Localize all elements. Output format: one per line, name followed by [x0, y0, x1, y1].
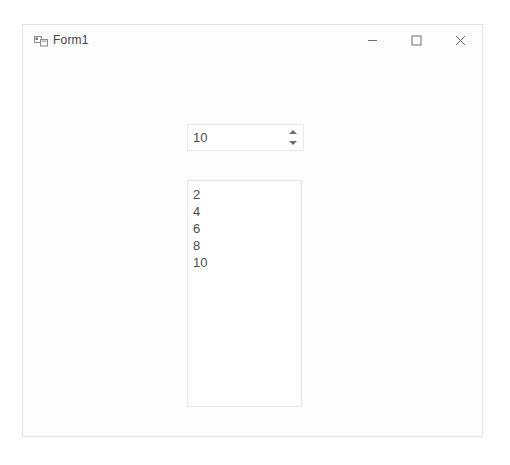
listbox[interactable]: 2 4 6 8 10	[187, 180, 302, 407]
screen: Form1	[0, 0, 510, 465]
maximize-icon	[411, 35, 422, 46]
listbox-items: 2 4 6 8 10	[188, 181, 301, 271]
spinner-down-arrow-icon	[289, 141, 297, 145]
numeric-updown-spinner	[285, 125, 303, 150]
maximize-button[interactable]	[394, 25, 438, 56]
numeric-updown[interactable]: 10	[187, 124, 304, 151]
window-controls	[350, 25, 482, 56]
close-icon	[455, 35, 466, 46]
numeric-updown-increment-button[interactable]	[286, 127, 300, 138]
numeric-updown-decrement-button[interactable]	[286, 138, 300, 149]
minimize-button[interactable]	[350, 25, 394, 56]
list-item[interactable]: 6	[192, 220, 301, 237]
window-title: Form1	[53, 25, 89, 56]
list-item[interactable]: 8	[192, 237, 301, 254]
minimize-icon	[367, 35, 378, 46]
list-item[interactable]: 10	[192, 254, 301, 271]
numeric-updown-value[interactable]: 10	[188, 125, 285, 150]
title-bar[interactable]: Form1	[23, 25, 482, 56]
form-client-area: 10 2 4 6 8 10	[23, 56, 482, 436]
spinner-up-arrow-icon	[289, 130, 297, 134]
list-item[interactable]: 2	[192, 186, 301, 203]
close-button[interactable]	[438, 25, 482, 56]
form-window: Form1	[22, 24, 483, 437]
list-item[interactable]: 4	[192, 203, 301, 220]
winforms-app-icon	[33, 33, 49, 49]
